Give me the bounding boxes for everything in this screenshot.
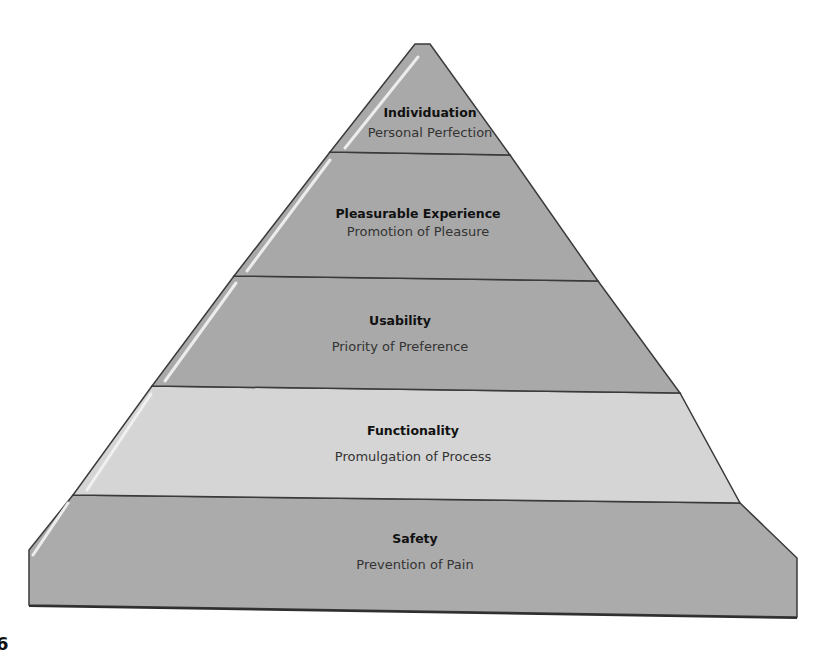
level-subtitle: Promotion of Pleasure	[335, 223, 500, 241]
level-title: Usability	[332, 312, 469, 330]
level-label-pleasurable-experience: Pleasurable Experience Promotion of Plea…	[335, 205, 500, 241]
level-title: Functionality	[335, 422, 491, 440]
level-label-functionality: Functionality Promulgation of Process	[335, 422, 491, 468]
cropped-figure-number: 6	[0, 633, 9, 654]
level-title: Safety	[356, 530, 473, 548]
level-subtitle: Personal Perfection	[368, 122, 493, 144]
level-title: Individuation	[368, 104, 493, 122]
level-label-safety: Safety Prevention of Pain	[356, 530, 473, 576]
level-subtitle: Promulgation of Process	[335, 446, 491, 468]
level-label-individuation: Individuation Personal Perfection	[368, 104, 493, 144]
level-title: Pleasurable Experience	[335, 205, 500, 223]
level-subtitle: Priority of Preference	[332, 336, 469, 358]
level-subtitle: Prevention of Pain	[356, 554, 473, 576]
level-label-usability: Usability Priority of Preference	[332, 312, 469, 358]
